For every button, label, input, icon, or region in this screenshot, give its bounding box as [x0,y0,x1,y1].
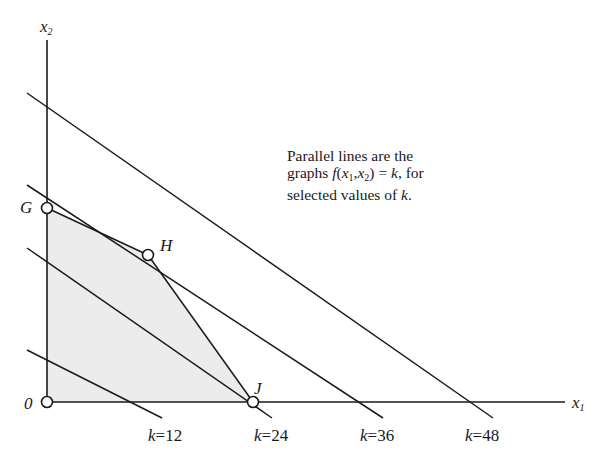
annotation-line-2: graphs f(x1,x2) = k, for [287,164,487,186]
y-axis-label: x2 [40,18,53,37]
y-axis-label-var: x [40,17,48,36]
x-axis-label-var: x [572,393,580,412]
vertex-O-marker [42,397,53,408]
annotation-for: , for [398,164,424,181]
annotation-graphs: graphs [287,164,332,181]
k36-label-value: =36 [368,426,395,445]
k36-label-k: k [360,426,368,445]
annotation-selected: selected values of [287,186,401,203]
k24-label-k: k [254,426,262,445]
annotation-line-3: selected values of k. [287,186,487,203]
annotation-k: k [391,164,398,181]
linear-programming-diagram [0,0,607,456]
k12-label-k: k [148,426,156,445]
vertex-O-label: 0 [24,395,33,412]
annotation-line-1: Parallel lines are the [287,147,487,164]
y-axis-label-sub: 2 [48,26,53,37]
x-axis-label-sub: 1 [580,402,585,413]
k48-label: k=48 [465,427,499,444]
k36-label: k=36 [360,427,394,444]
k12-label-value: =12 [156,426,183,445]
feasible-region [47,208,253,402]
vertex-H-marker [143,250,154,261]
k24-label: k=24 [254,427,288,444]
annotation-equals: ) = [369,164,391,181]
k12-label: k=12 [148,427,182,444]
vertex-J-marker [248,397,259,408]
vertex-J-label: J [254,380,262,397]
k48-label-k: k [465,426,473,445]
annotation-k2: k [401,186,408,203]
annotation-text: Parallel lines are the graphs f(x1,x2) =… [287,147,487,203]
x-axis-label: x1 [572,394,585,413]
k48-label-value: =48 [473,426,500,445]
vertex-G-label: G [20,199,32,216]
annotation-x1: x [342,164,349,181]
k24-label-value: =24 [262,426,289,445]
vertex-H-label: H [160,237,172,254]
annotation-period: . [408,186,412,203]
vertex-G-marker [42,203,53,214]
